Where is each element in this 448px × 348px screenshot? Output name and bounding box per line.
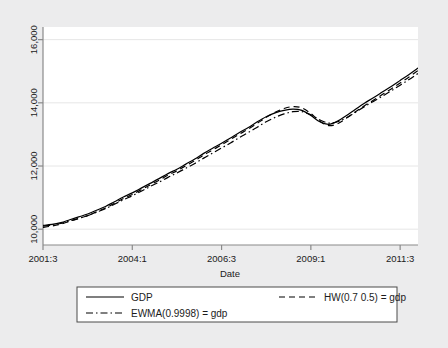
line-chart: 10,00012,00014,00016,000 2001:32004:1200… xyxy=(0,0,448,348)
x-tick-label: 2009:1 xyxy=(296,253,325,264)
legend-label: EWMA(0.9998) = gdp xyxy=(131,308,228,319)
x-tick-label: 2006:3 xyxy=(207,253,236,264)
plot-area-background xyxy=(43,27,418,245)
x-tick-label: 2001:3 xyxy=(28,253,57,264)
legend-label: GDP xyxy=(131,292,153,303)
y-tick-label: 14,000 xyxy=(29,88,40,117)
y-tick-label: 16,000 xyxy=(29,25,40,54)
legend-label: HW(0.7 0.5) = gdp xyxy=(324,292,406,303)
y-tick-label: 10,000 xyxy=(29,215,40,244)
chart-figure: 10,00012,00014,00016,000 2001:32004:1200… xyxy=(0,0,448,348)
y-tick-label: 12,000 xyxy=(29,151,40,180)
x-axis-title: Date xyxy=(220,268,240,279)
x-tick-label: 2011:3 xyxy=(386,253,414,264)
chart-legend: GDPHW(0.7 0.5) = gdpEWMA(0.9998) = gdp xyxy=(77,287,406,322)
x-tick-label: 2004:1 xyxy=(118,253,147,264)
